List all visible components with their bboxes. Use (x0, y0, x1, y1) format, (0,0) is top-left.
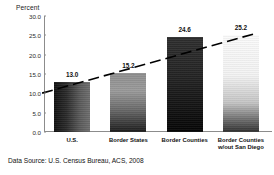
y-tick-mark (44, 112, 46, 113)
bar-us (54, 82, 90, 132)
x-axis-label: Border States (109, 137, 148, 144)
y-tick-label: 5.0 (32, 109, 41, 116)
data-source-note: Data Source: U.S. Census Bureau, ACS, 20… (8, 157, 144, 164)
x-axis-label-line: Border Counties (162, 137, 208, 143)
chart-container: Percent 0.05.010.015.020.025.030.0 13.01… (0, 0, 274, 175)
x-axis-label-line: Border Counties (218, 137, 264, 143)
bar-border-counties-wo-san-diego (223, 35, 259, 132)
bar-border-states (110, 73, 146, 132)
y-tick-mark (44, 35, 46, 36)
y-tick-mark (44, 16, 46, 17)
y-tick-mark (44, 74, 46, 75)
x-axis-label: Border Counties (162, 137, 208, 144)
plot-area: 13.015.224.625.2 (44, 16, 269, 132)
x-axis-label-line: w/out San Diego (218, 144, 264, 151)
bar-border-counties (167, 37, 203, 132)
x-axis-label-line: U.S. (66, 137, 77, 143)
y-tick-label: 25.0 (29, 32, 41, 39)
y-tick-label: 30.0 (29, 13, 41, 20)
y-tick-mark (44, 132, 46, 133)
data-label: 24.6 (178, 26, 190, 33)
y-tick-label: 10.0 (29, 90, 41, 97)
data-label: 25.2 (235, 24, 247, 31)
y-tick-label: 0.0 (32, 129, 41, 136)
x-axis-label: U.S. (66, 137, 77, 144)
y-tick-mark (44, 54, 46, 55)
y-tick-mark (44, 93, 46, 94)
data-label: 13.0 (66, 71, 78, 78)
x-axis-label-line: Border States (109, 137, 148, 143)
x-axis-label: Border Countiesw/out San Diego (218, 137, 264, 151)
data-label: 15.2 (122, 62, 134, 69)
y-tick-label: 20.0 (29, 51, 41, 58)
y-axis-ticks: 0.05.010.015.020.025.030.0 (12, 16, 41, 132)
y-axis-title: Percent (16, 4, 39, 11)
y-tick-label: 15.0 (29, 71, 41, 78)
